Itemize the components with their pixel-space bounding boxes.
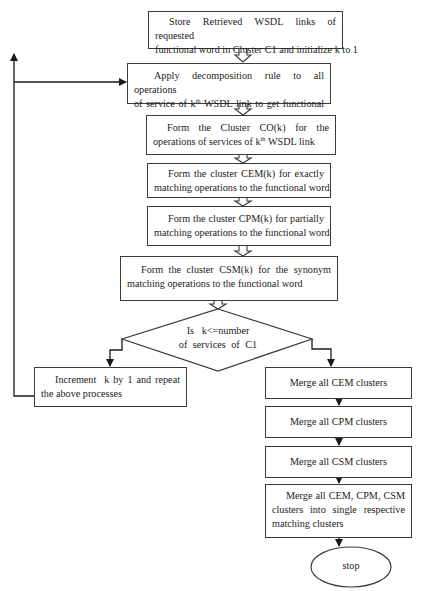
step-form-csm: Form the cluster CSM(k) for the synonym … [120,256,338,301]
step-merge-cem: Merge all CEM clusters [265,367,412,399]
step-increment-k: Increment k by 1 and repeat the above pr… [34,367,187,407]
step-merge-csm: Merge all CSM clusters [265,446,412,478]
step-merge-all: Merge all CEM, CPM, CSM clusters into si… [265,484,412,538]
hollow-arrow-6 [210,300,226,309]
stop-label: stop [321,560,381,571]
decision-label: Is k<=number of services of C1 [160,324,276,352]
hollow-arrow-4 [235,197,251,206]
step-merge-cpm: Merge all CPM clusters [265,406,412,438]
step-form-cpm: Form the cluster CPM(k) for partially ma… [147,206,331,246]
hollow-arrow-5 [235,246,251,256]
step-form-co: Form the Cluster CO(k) for the operation… [146,115,336,155]
step-store-links: Store Retrieved WSDL links of requested … [148,11,343,49]
step-apply-decomposition: Apply decomposition rule to all operatio… [127,63,331,104]
hollow-arrow-3 [235,155,251,163]
step-form-cem: Form the cluster CEM(k) for exactly matc… [147,163,331,198]
